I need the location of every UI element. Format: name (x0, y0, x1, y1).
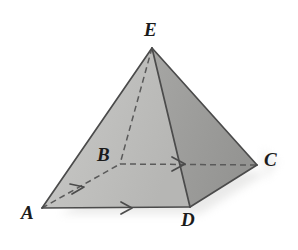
edge-AD (42, 207, 190, 208)
vertex-label-C: C (264, 150, 277, 169)
vertex-label-E: E (144, 20, 157, 39)
vertex-label-B: B (97, 145, 110, 164)
vertex-label-D: D (181, 210, 195, 229)
vertex-label-A: A (21, 203, 34, 222)
geometry-figure: E A B C D (0, 0, 298, 250)
